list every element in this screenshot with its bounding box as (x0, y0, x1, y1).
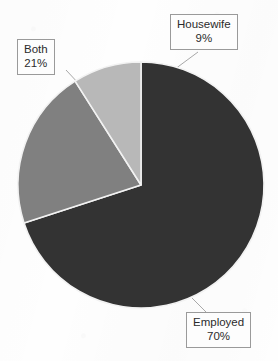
pie-slices (18, 62, 264, 308)
pie-label-employed[interactable]: Employed 70% (186, 312, 251, 348)
pie-label-employed-category: Employed (193, 316, 244, 330)
pie-label-both[interactable]: Both 21% (17, 39, 55, 75)
pie-label-housewife[interactable]: Housewife 9% (170, 14, 238, 50)
pie-label-both-percent: 21% (24, 57, 48, 71)
pie-label-housewife-category: Housewife (177, 18, 231, 32)
pie-label-housewife-percent: 9% (177, 32, 231, 46)
pie-label-employed-percent: 70% (193, 330, 244, 344)
figure-canvas: Housewife 9% Both 21% Employed 70% (0, 0, 278, 361)
pie-label-both-category: Both (24, 43, 48, 57)
leader-line-employed (192, 298, 206, 312)
